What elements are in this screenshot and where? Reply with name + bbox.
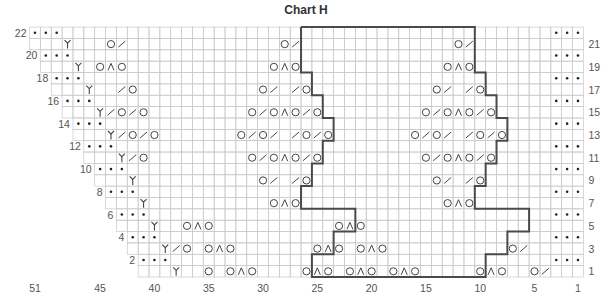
grid-cell: [138, 266, 149, 277]
grid-cell: [366, 152, 377, 163]
grid-cell: [323, 197, 334, 208]
grid-cell: [149, 152, 160, 163]
grid-cell: [388, 50, 399, 61]
grid-cell: [475, 118, 486, 129]
grid-cell: [388, 129, 399, 140]
grid-cell: [268, 50, 279, 61]
grid-cell: [62, 84, 73, 95]
grid-cell: [268, 38, 279, 49]
grid-cell: [160, 186, 171, 197]
grid-cell: [279, 232, 290, 243]
grid-cell: [366, 73, 377, 84]
grid-cell: [127, 27, 138, 38]
grid-cell: [236, 118, 247, 129]
grid-cell: [214, 107, 225, 118]
grid-cell: [268, 27, 279, 38]
grid-cell: [236, 152, 247, 163]
grid-cell: [377, 163, 388, 174]
grid-cell: [497, 186, 508, 197]
grid-cell: [225, 197, 236, 208]
yarn-over-icon: [466, 154, 473, 161]
grid-cell: [225, 220, 236, 231]
grid-cell: [192, 50, 203, 61]
purl-dot-icon: [55, 54, 58, 57]
grid-cell: [355, 38, 366, 49]
grid-cell: [421, 73, 432, 84]
grid-cell: [507, 197, 518, 208]
grid-cell: [171, 27, 182, 38]
grid-cell: [388, 197, 399, 208]
grid-cell: [529, 84, 540, 95]
purl-dot-icon: [99, 145, 102, 148]
grid-cell: [192, 197, 203, 208]
edge-decrease-icon: [130, 176, 136, 185]
column-label: 20: [366, 282, 378, 294]
grid-cell: [410, 209, 421, 220]
grid-cell: [529, 129, 540, 140]
grid-cell: [236, 95, 247, 106]
grid-cell: [182, 61, 193, 72]
grid-cell: [138, 175, 149, 186]
grid-cell: [453, 73, 464, 84]
grid-cell: [486, 61, 497, 72]
row-label: 17: [588, 84, 600, 96]
grid-cell: [182, 209, 193, 220]
grid-cell: [442, 186, 453, 197]
grid-cell: [203, 61, 214, 72]
grid-cell: [334, 50, 345, 61]
yarn-over-icon: [314, 245, 321, 252]
grid-cell: [51, 84, 62, 95]
grid-cell: [410, 232, 421, 243]
grid-cell: [182, 27, 193, 38]
grid-cell: [268, 220, 279, 231]
grid-cell: [507, 61, 518, 72]
grid-cell: [540, 186, 551, 197]
yarn-over-icon: [249, 154, 256, 161]
k2tog-icon: [107, 109, 114, 115]
grid-cell: [203, 27, 214, 38]
grid-cell: [258, 197, 269, 208]
grid-cell: [529, 197, 540, 208]
grid-cell: [475, 38, 486, 49]
k2tog-icon: [260, 155, 267, 161]
purl-dot-icon: [66, 77, 69, 80]
grid-cell: [399, 129, 410, 140]
grid-cell: [464, 220, 475, 231]
grid-cell: [192, 61, 203, 72]
grid-cell: [236, 50, 247, 61]
grid-cell: [95, 175, 106, 186]
grid-cell: [377, 186, 388, 197]
grid-cell: [431, 118, 442, 129]
grid-cell: [540, 107, 551, 118]
grid-cell: [312, 163, 323, 174]
grid-cell: [540, 209, 551, 220]
purl-dot-icon: [555, 54, 558, 57]
grid-cell: [410, 95, 421, 106]
grid-cell: [312, 27, 323, 38]
grid-cell: [247, 254, 258, 265]
grid-cell: [171, 95, 182, 106]
grid-cell: [410, 186, 421, 197]
k2tog-icon: [173, 246, 180, 252]
grid-cell: [279, 163, 290, 174]
yarn-over-icon: [487, 154, 494, 161]
grid-cell: [399, 118, 410, 129]
grid-cell: [127, 50, 138, 61]
grid-cell: [268, 141, 279, 152]
k2tog-icon: [422, 132, 429, 138]
grid-cell: [344, 50, 355, 61]
grid-cell: [562, 84, 573, 95]
yarn-over-icon: [205, 222, 212, 229]
purl-dot-icon: [566, 100, 569, 103]
grid-cell: [464, 163, 475, 174]
yarn-over-icon: [303, 177, 310, 184]
grid-cell: [377, 175, 388, 186]
grid-cell: [247, 118, 258, 129]
yarn-over-icon: [292, 109, 299, 116]
grid-cell: [551, 38, 562, 49]
grid-cell: [399, 232, 410, 243]
grid-cell: [421, 84, 432, 95]
double-decrease-icon: [325, 245, 331, 252]
grid-cell: [388, 61, 399, 72]
grid-cell: [312, 118, 323, 129]
